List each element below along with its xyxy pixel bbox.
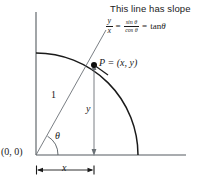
fraction-sin-over-cos: sin θ cos θ: [124, 19, 139, 33]
tangent-expression: tanθ: [150, 21, 165, 31]
angle-theta-label: θ: [55, 131, 60, 141]
fraction-numerator-sin-theta: sin θ: [124, 19, 138, 27]
slope-ray: [36, 30, 106, 155]
tangent-function-name: tan: [150, 21, 161, 31]
tangent-argument-theta: θ: [161, 21, 165, 31]
origin-label: (0, 0): [1, 147, 23, 157]
vertical-leg-label: y: [86, 104, 90, 114]
fraction-denominator-x: x: [106, 27, 113, 36]
slope-equation: y x = sin θ cos θ = tanθ: [106, 17, 166, 35]
trig-unit-circle-figure: This line has slope y x = sin θ cos θ = …: [0, 0, 208, 182]
x-dimension-arrowhead-right: [88, 168, 94, 172]
fraction-y-over-x: y x: [106, 17, 113, 35]
point-p-label: P = (x, y): [99, 58, 137, 68]
horizontal-leg-label: x: [62, 163, 66, 173]
fraction-denominator-cos-theta: cos θ: [124, 27, 139, 34]
radius-label: 1: [51, 90, 56, 100]
equals-sign-first: =: [116, 21, 121, 31]
diagram-canvas: [0, 0, 208, 182]
equals-sign-second: =: [142, 21, 147, 31]
x-dimension-arrowhead-left: [37, 168, 43, 172]
slope-caption: This line has slope: [110, 4, 191, 14]
